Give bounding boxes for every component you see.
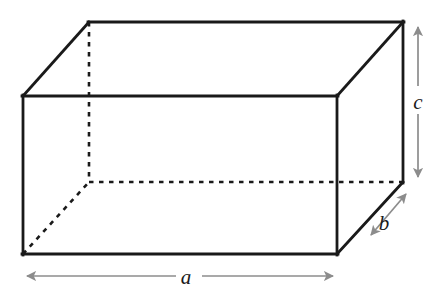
depth-label: b xyxy=(379,211,390,235)
figure-container: a b c xyxy=(0,0,446,296)
height-label: c xyxy=(413,90,423,114)
figure-background xyxy=(0,0,446,296)
box-diagram-svg: a b c xyxy=(0,0,446,296)
length-label: a xyxy=(181,265,192,289)
